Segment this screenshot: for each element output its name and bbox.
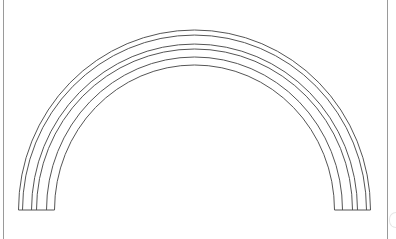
rainbow-arc-line (47, 57, 343, 210)
rainbow-arc-line (32, 44, 358, 210)
rainbow-arc-line (37, 49, 353, 210)
rainbow-arc-line (55, 65, 335, 210)
watermark-logo-icon (389, 212, 396, 228)
rainbow-arc-line (23, 35, 367, 210)
